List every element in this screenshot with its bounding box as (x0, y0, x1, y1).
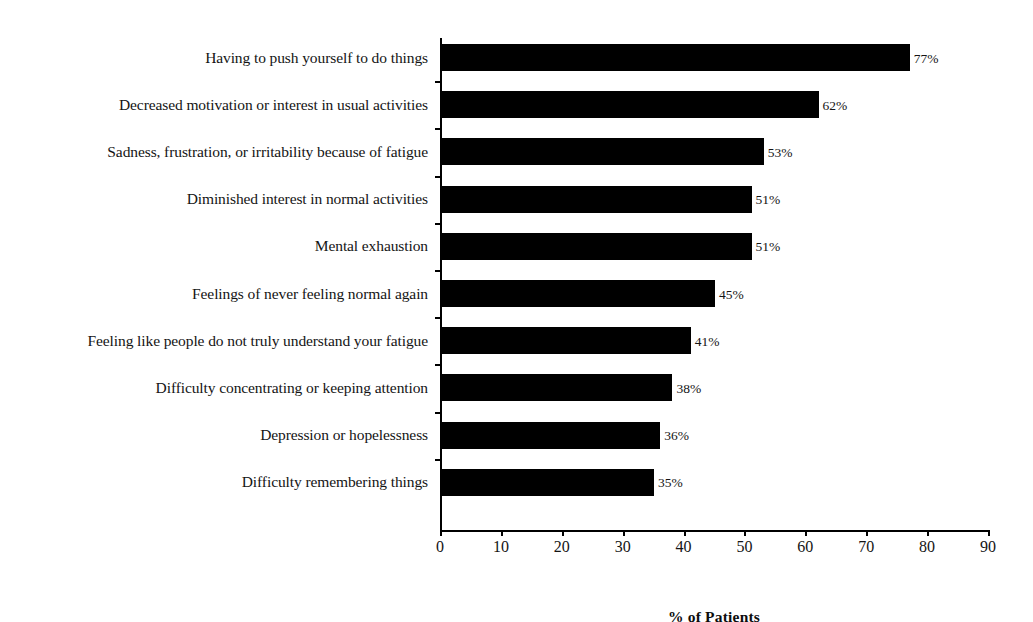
y-axis-tick (435, 317, 441, 319)
x-axis-tick (805, 530, 807, 536)
x-axis-tick-label: 0 (436, 539, 444, 555)
y-axis-tick (435, 270, 441, 272)
x-axis-tick-label: 10 (493, 539, 509, 555)
category-label: Decreased motivation or interest in usua… (119, 97, 428, 113)
category-axis-labels: Having to push yourself to do thingsDecr… (0, 30, 434, 530)
x-axis-tick (866, 530, 868, 536)
category-label: Depression or hopelessness (260, 427, 428, 443)
x-axis-tick-label: 90 (980, 539, 996, 555)
bar-value-label: 62% (823, 99, 848, 113)
x-axis-tick-label: 80 (919, 539, 935, 555)
category-label: Difficulty remembering things (242, 474, 428, 490)
x-axis-tick (927, 530, 929, 536)
bar-value-label: 35% (658, 476, 683, 490)
bar (441, 138, 764, 165)
bar (441, 327, 691, 354)
x-axis-tick (562, 530, 564, 536)
y-axis-tick (435, 81, 441, 83)
bar (441, 280, 715, 307)
bar-value-label: 53% (768, 146, 793, 160)
x-axis-tick-label: 40 (676, 539, 692, 555)
x-axis-tick-label: 50 (736, 539, 752, 555)
bar-value-label: 77% (914, 52, 939, 66)
bar (441, 469, 654, 496)
bar (441, 374, 672, 401)
plot-area: 0102030405060708090 77%62%53%51%51%45%41… (440, 30, 988, 530)
bar-value-label: 51% (756, 240, 781, 254)
y-axis-tick (435, 459, 441, 461)
bar-value-label: 45% (719, 288, 744, 302)
x-axis-tick (744, 530, 746, 536)
y-axis-tick (435, 364, 441, 366)
bar (441, 44, 910, 71)
y-axis-tick (435, 176, 441, 178)
category-label: Feelings of never feeling normal again (192, 286, 428, 302)
category-label: Difficulty concentrating or keeping atte… (156, 380, 428, 396)
x-axis-tick (684, 530, 686, 536)
x-axis-tick (501, 530, 503, 536)
x-axis-title: % of Patients (440, 608, 988, 622)
bar (441, 91, 819, 118)
bar-value-label: 41% (695, 335, 720, 349)
x-axis-tick (623, 530, 625, 536)
bar (441, 422, 660, 449)
bar (441, 233, 752, 260)
x-axis-tick-label: 20 (554, 539, 570, 555)
y-axis-tick (435, 223, 441, 225)
bar (441, 186, 752, 213)
x-axis-tick (988, 530, 990, 536)
category-label: Feeling like people do not truly underst… (88, 333, 429, 349)
bar-value-label: 51% (756, 193, 781, 207)
bar-value-label: 38% (676, 382, 701, 396)
x-axis-tick-label: 60 (797, 539, 813, 555)
category-label: Diminished interest in normal activities (187, 191, 428, 207)
x-axis-line (440, 530, 988, 532)
bar-value-label: 36% (664, 429, 689, 443)
y-axis-tick (435, 412, 441, 414)
y-axis-tick (435, 128, 441, 130)
category-label: Sadness, frustration, or irritability be… (107, 144, 428, 160)
category-label: Mental exhaustion (315, 238, 428, 254)
category-label: Having to push yourself to do things (205, 50, 428, 66)
x-axis-tick (440, 530, 442, 536)
bar-chart: Having to push yourself to do thingsDecr… (0, 0, 1033, 622)
x-axis-tick-label: 70 (858, 539, 874, 555)
x-axis-tick-label: 30 (615, 539, 631, 555)
